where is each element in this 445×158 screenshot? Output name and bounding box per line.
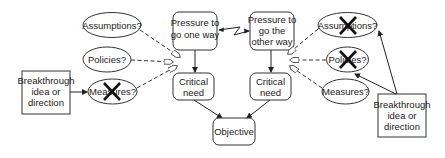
left-assumptions-label: Assumptions? (82, 20, 142, 31)
left-assumptions-ellipse: Assumptions? (82, 13, 142, 38)
left-measures-ellipse: Measures? (88, 79, 137, 104)
left-pressure-line2: go one way (171, 29, 220, 40)
left-breakthrough-line1: Breakthrough (17, 75, 74, 86)
lightning-zigzag-icon (218, 27, 250, 35)
objective-label: Objective (214, 126, 254, 137)
left-critical-line2: need (183, 87, 204, 98)
left-breakthrough-line2: idea or (31, 86, 60, 97)
right-breakthrough-line3: direction (384, 121, 420, 132)
right-pressure-line3: other way (251, 36, 292, 47)
left-measures-dashed-arrow (137, 66, 177, 88)
right-breakthrough-line2: idea or (387, 110, 416, 121)
right-measures-label: Measures? (322, 86, 369, 97)
right-breakthrough-line1: Breakthrough (373, 99, 430, 110)
left-pressure-box: Pressure to go one way (171, 12, 220, 50)
right-pressure-line2: go the (259, 25, 285, 36)
objective-box: Objective (213, 118, 255, 145)
left-critical-need-box: Critical need (173, 73, 214, 100)
right-assumptions-ellipse: Assumptions? (318, 13, 378, 38)
left-breakthrough-line3: direction (28, 97, 64, 108)
left-policies-dashed-arrow (131, 60, 173, 62)
left-critical-line1: Critical (179, 76, 208, 87)
left-pressure-line1: Pressure to (171, 17, 220, 28)
left-policies-label: Policies? (88, 54, 126, 65)
left-need-to-objective-arrow (194, 100, 222, 118)
right-pressure-box: Pressure to go the other way (248, 12, 297, 50)
right-policies-ellipse: Policies? (327, 47, 369, 72)
left-breakthrough-box: Breakthrough idea or direction (17, 71, 74, 114)
right-need-to-objective-arrow (247, 100, 270, 118)
conflict-resolution-diagram: Pressure to go one way Critical need Ass… (0, 0, 445, 158)
left-policies-ellipse: Policies? (83, 47, 131, 72)
right-measures-dashed-arrow (290, 66, 322, 88)
right-critical-line2: need (260, 87, 281, 98)
right-critical-need-box: Critical need (250, 73, 291, 100)
right-breakthrough-box: Breakthrough idea or direction (373, 94, 430, 137)
right-critical-line1: Critical (256, 76, 285, 87)
right-breakthrough-to-assumptions-arrow (379, 31, 397, 94)
right-pressure-line1: Pressure to (248, 14, 297, 25)
right-measures-ellipse: Measures? (322, 79, 369, 104)
